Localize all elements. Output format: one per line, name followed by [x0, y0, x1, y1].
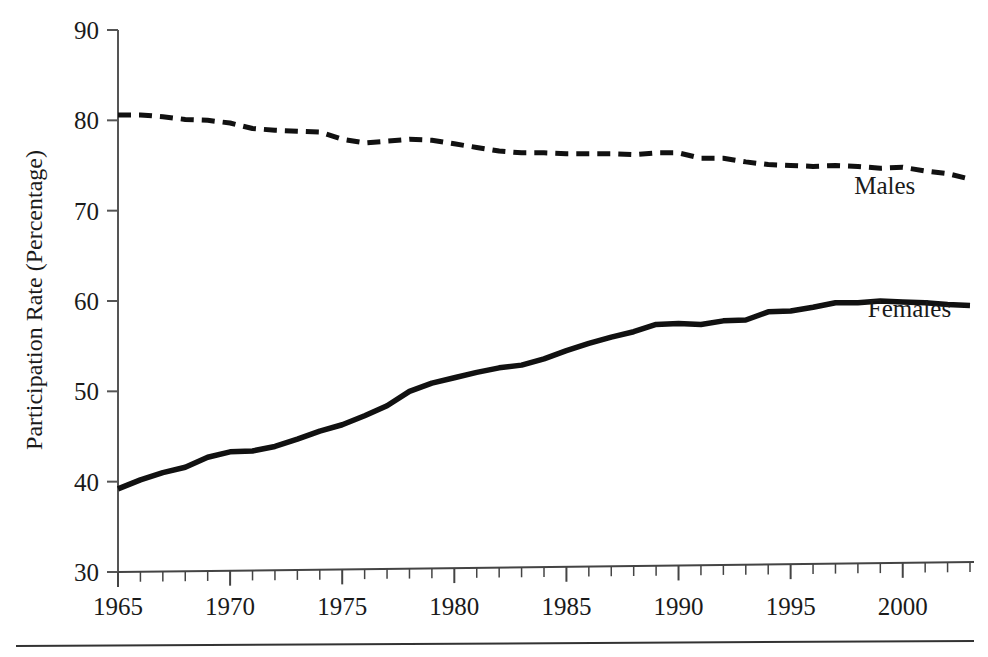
series-annotation-males: Males [854, 172, 915, 199]
y-axis-title: Participation Rate (Percentage) [21, 150, 47, 450]
x-tick-label: 1965 [93, 593, 143, 620]
x-tick-label: 1995 [766, 593, 816, 620]
y-tick-label: 50 [74, 378, 99, 405]
y-tick-label: 60 [74, 288, 99, 315]
footer-rule [16, 641, 974, 646]
y-tick-label: 40 [74, 469, 99, 496]
x-tick-label: 1985 [541, 593, 591, 620]
line-chart: 3040506070809019651970197519801985199019… [0, 0, 988, 657]
x-tick-label: 1975 [317, 593, 367, 620]
x-tick-label: 2000 [878, 593, 928, 620]
chart-axes [16, 30, 974, 646]
series-line-females [118, 301, 970, 489]
x-tick-label: 1990 [654, 593, 704, 620]
y-tick-label: 70 [74, 198, 99, 225]
chart-series [118, 115, 970, 489]
series-annotation-females: Females [868, 295, 951, 322]
chart-labels: 3040506070809019651970197519801985199019… [21, 17, 951, 620]
y-tick-label: 30 [74, 559, 99, 586]
y-tick-label: 90 [74, 17, 99, 44]
chart-figure: 3040506070809019651970197519801985199019… [0, 0, 988, 657]
x-tick-label: 1970 [205, 593, 255, 620]
x-axis-line [118, 562, 974, 572]
x-tick-label: 1980 [429, 593, 479, 620]
series-line-males [118, 115, 970, 179]
y-tick-label: 80 [74, 107, 99, 134]
